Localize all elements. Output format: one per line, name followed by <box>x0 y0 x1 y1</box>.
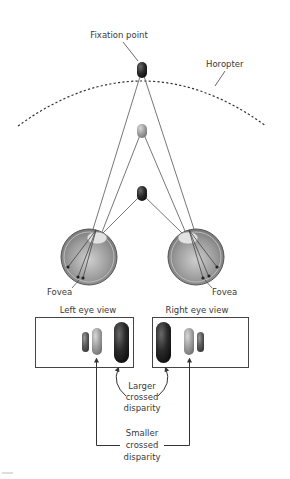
left-eye <box>61 229 117 285</box>
horopter-disparity-diagram: Fixation point Horopter Fovea <box>0 0 290 479</box>
right-eye-view-label: Right eye view <box>166 305 229 315</box>
horopter-label: Horopter <box>206 59 244 69</box>
smaller-disparity-label-2: crossed <box>126 440 159 450</box>
middle-object <box>137 124 147 138</box>
left-eye-view-label: Left eye view <box>60 305 117 315</box>
smaller-disparity-arrow-right <box>164 360 190 446</box>
larger-disparity-arrow-right <box>158 369 168 396</box>
larger-disparity-arrow-left <box>116 369 126 396</box>
fixation-point-leader <box>123 42 138 61</box>
larger-disparity-label-3: disparity <box>123 403 160 413</box>
left-view-fixation-object <box>82 332 89 352</box>
right-view-fixation-object <box>197 332 204 352</box>
fixation-object <box>137 62 147 78</box>
left-view-middle-object <box>92 328 102 355</box>
near-object <box>137 186 147 201</box>
smaller-disparity-label-1: Smaller <box>126 428 159 438</box>
fovea-right-label: Fovea <box>212 287 237 297</box>
right-eye <box>168 229 224 285</box>
larger-disparity-label-2: crossed <box>126 392 159 402</box>
larger-disparity-label-1: Larger <box>128 381 156 391</box>
horopter-leader <box>215 71 225 86</box>
smaller-disparity-label-3: disparity <box>123 452 160 462</box>
horopter-arc <box>18 81 266 126</box>
fovea-left-label: Fovea <box>47 287 72 297</box>
right-view-near-object <box>156 322 171 363</box>
left-view-near-object <box>114 322 129 363</box>
fixation-point-label: Fixation point <box>90 30 148 40</box>
right-view-middle-object <box>184 328 194 355</box>
